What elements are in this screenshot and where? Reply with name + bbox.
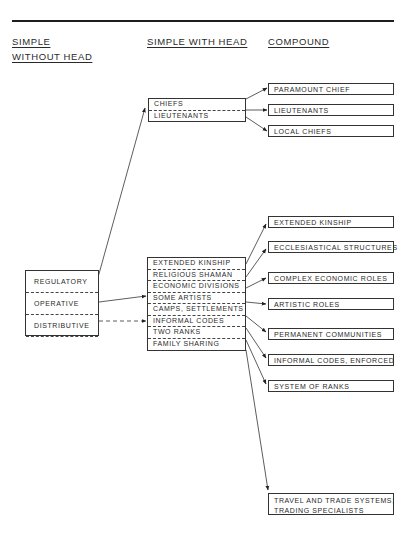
box-extended-kinship: EXTENDED KINSHIP bbox=[268, 216, 394, 228]
simple-without-head-box: REGULATORY OPERATIVE DISTRIBUTIVE bbox=[25, 270, 99, 336]
box-travel-trade: TRAVEL AND TRADE SYSTEMS; TRADING SPECIA… bbox=[268, 493, 394, 515]
cell-economic-divisions: ECONOMIC DIVISIONS bbox=[148, 281, 245, 293]
box-complex-economic-roles: COMPLEX ECONOMIC ROLES bbox=[268, 272, 394, 284]
cell-lieutenants: LIEUTENANTS bbox=[149, 111, 245, 122]
arrow-complex-economic bbox=[246, 278, 266, 288]
box-paramount-chief: PARAMOUNT CHIEF bbox=[268, 83, 394, 95]
cell-extended-kinship: EXTENDED KINSHIP bbox=[148, 258, 245, 270]
cell-family-sharing: FAMILY SHARING bbox=[148, 339, 245, 350]
cell-distributive: DISTRIBUTIVE bbox=[26, 315, 98, 337]
arrow-extended-kinship bbox=[246, 224, 266, 264]
arrow-regulatory-chiefs bbox=[97, 108, 145, 281]
cell-religious-shaman: RELIGIOUS SHAMAN bbox=[148, 270, 245, 282]
cell-informal-codes: INFORMAL CODES bbox=[148, 316, 245, 328]
cell-regulatory: REGULATORY bbox=[26, 271, 98, 293]
arrow-artistic-roles bbox=[246, 302, 266, 304]
box-artistic-roles: ARTISTIC ROLES bbox=[268, 298, 394, 310]
arrow-operative-artists bbox=[99, 296, 146, 302]
arrow-permanent-communities bbox=[246, 316, 266, 332]
arrow-informal-enforced bbox=[246, 328, 266, 358]
arrow-local-chiefs bbox=[246, 117, 267, 131]
arrow-trade bbox=[246, 350, 268, 490]
cell-operative: OPERATIVE bbox=[26, 293, 98, 315]
box-system-of-ranks: SYSTEM OF RANKS bbox=[268, 380, 394, 392]
arrow-ecclesiastical bbox=[246, 249, 266, 277]
box-lieutenants: LIEUTENANTS bbox=[268, 104, 394, 116]
trade-line-2: TRADING SPECIALISTS bbox=[274, 506, 393, 516]
cell-two-ranks: TWO RANKS bbox=[148, 327, 245, 339]
box-permanent-communities: PERMANENT COMMUNITIES bbox=[268, 328, 394, 340]
box-local-chiefs: LOCAL CHIEFS bbox=[268, 125, 394, 137]
cell-camps-settlements: CAMPS, SETTLEMENTS bbox=[148, 304, 245, 316]
cell-chiefs: CHIEFS bbox=[149, 99, 245, 111]
trade-line-1: TRAVEL AND TRADE SYSTEMS; bbox=[274, 496, 393, 506]
chiefs-box: CHIEFS LIEUTENANTS bbox=[148, 98, 246, 122]
box-informal-codes-enforced: INFORMAL CODES, ENFORCED bbox=[268, 354, 394, 366]
box-ecclesiastical-structures: ECCLESIASTICAL STRUCTURES bbox=[268, 241, 394, 253]
arrow-chiefs-paramount bbox=[246, 88, 267, 99]
cell-some-artists: SOME ARTISTS bbox=[148, 293, 245, 305]
arrow-system-ranks bbox=[246, 340, 266, 384]
simple-with-head-box: EXTENDED KINSHIP RELIGIOUS SHAMAN ECONOM… bbox=[147, 257, 246, 351]
